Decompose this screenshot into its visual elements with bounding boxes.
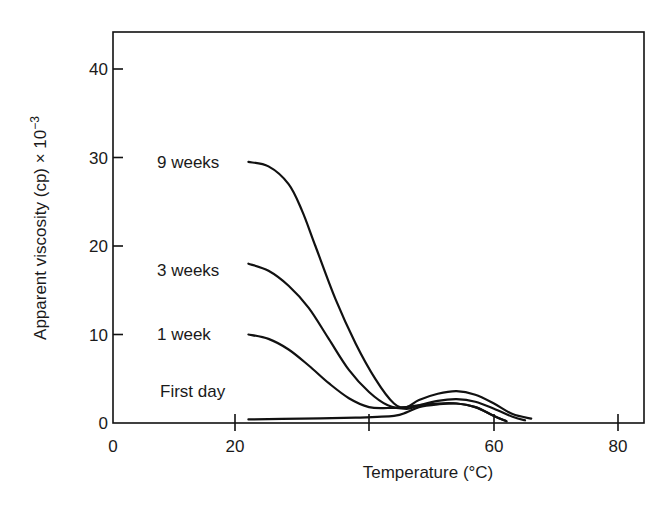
curve-9-weeks bbox=[248, 162, 531, 419]
y-tick-label: 10 bbox=[89, 326, 108, 345]
plot-frame bbox=[113, 32, 644, 423]
label-1-week: 1 week bbox=[157, 325, 211, 344]
series-labels: 9 weeks3 weeks1 weekFirst day bbox=[157, 153, 226, 401]
x-axis-title: Temperature (°C) bbox=[363, 463, 494, 482]
label-3-weeks: 3 weeks bbox=[157, 261, 219, 280]
curve-first-day bbox=[248, 403, 506, 421]
y-tick-label: 20 bbox=[89, 237, 108, 256]
curve-1-week bbox=[248, 335, 506, 422]
series-curves bbox=[248, 162, 531, 421]
label-first-day: First day bbox=[160, 382, 226, 401]
x-tick-label: 60 bbox=[485, 437, 504, 456]
y-axis-title: Apparent viscosity (cp) × 10−3 bbox=[28, 116, 50, 340]
x-tick-label: 80 bbox=[609, 437, 628, 456]
x-axis: 0206080 bbox=[108, 414, 627, 456]
viscosity-chart: 010203040 0206080 Temperature (°C) Appar… bbox=[0, 0, 666, 505]
x-tick-label: 0 bbox=[108, 437, 117, 456]
label-9-weeks: 9 weeks bbox=[157, 153, 219, 172]
y-tick-label: 40 bbox=[89, 60, 108, 79]
x-tick-label: 20 bbox=[226, 437, 245, 456]
y-axis: 010203040 bbox=[89, 60, 123, 433]
y-tick-label: 30 bbox=[89, 149, 108, 168]
y-tick-label: 0 bbox=[99, 414, 108, 433]
